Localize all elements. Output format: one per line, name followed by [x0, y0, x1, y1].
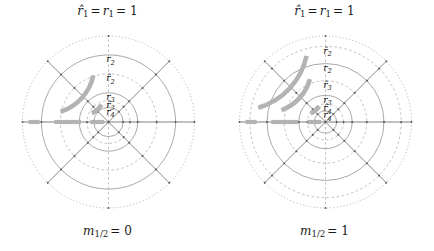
- grid-tick-dot: [155, 168, 157, 170]
- grid-tick-dot: [343, 121, 345, 123]
- grid-tick-dot: [332, 129, 334, 131]
- spoke-225deg: [48, 122, 109, 183]
- grid-tick-dot: [336, 121, 338, 123]
- grid-tick-dot: [194, 121, 196, 123]
- grid-tick-dot: [168, 60, 170, 62]
- grid-tick-dot: [128, 142, 130, 144]
- grid-tick-dot: [142, 155, 144, 157]
- data-arc-0: [61, 75, 94, 111]
- grid-tick-dot: [47, 182, 49, 184]
- polar-plot-left-svg: r2r̂2r3r̂3r4: [0, 22, 217, 222]
- grid-tick-dot: [118, 131, 120, 133]
- origin-dot: [107, 121, 109, 123]
- grid-tick-dot: [351, 121, 353, 123]
- radius-labels-right: r̂2r2r̂3r3r̂4r4: [323, 46, 332, 123]
- spoke-225deg: [265, 122, 326, 183]
- grid-tick-dot: [337, 134, 339, 136]
- panel-right-caption-eq: =: [325, 224, 339, 238]
- polar-plot-right-svg: r̂2r2r̂3r3r̂4r4: [217, 22, 434, 222]
- grid-tick-dot: [317, 113, 319, 115]
- grid-tick-dot: [332, 113, 334, 115]
- grid-tick-dot: [86, 121, 88, 123]
- figure-container: r̂1=r1=1 r2r̂2r3r̂3r4 m1/2=0 r̂1=r1=1 r̂…: [0, 0, 434, 251]
- grid-tick-dot: [137, 121, 139, 123]
- panel-left-title-eq1: =: [89, 4, 103, 18]
- grid-tick-dot: [306, 140, 308, 142]
- grid-tick-dot: [264, 60, 266, 62]
- radius-label-1: r̂2: [323, 46, 332, 58]
- grid-tick-dot: [295, 150, 297, 152]
- grid-tick-dot: [354, 150, 356, 152]
- grid-tick-dot: [283, 162, 285, 164]
- grid-tick-dot: [264, 182, 266, 184]
- grid-tick-dot: [47, 60, 49, 62]
- panel-left-caption-m: m: [83, 224, 94, 238]
- grid-tick-dot: [142, 87, 144, 89]
- polar-plot-right: r̂2r2r̂3r3r̂4r4: [217, 22, 434, 222]
- grid-tick-dot: [366, 162, 368, 164]
- grid-tick-dot: [366, 121, 368, 123]
- spoke-45deg: [109, 61, 170, 122]
- grid-tick-dot: [92, 106, 94, 108]
- grid-tick-dot: [87, 100, 89, 102]
- grid-tick-dot: [40, 121, 42, 123]
- grid-tick-dot: [306, 102, 308, 104]
- grid-tick-dot: [298, 121, 300, 123]
- grid-tick-dot: [295, 92, 297, 94]
- grid-tick-dot: [123, 106, 125, 108]
- grid-tick-dot: [118, 111, 120, 113]
- radius-labels-left: r2r̂2r3r̂3r4: [106, 54, 115, 119]
- radius-label-2: r̂2: [106, 73, 115, 85]
- panel-left-title-sub1: 1: [83, 9, 89, 19]
- grid-tick-dot: [383, 121, 385, 123]
- panel-left-caption-eq: =: [108, 224, 122, 238]
- grid-tick-dot: [378, 175, 380, 177]
- grid-tick-dot: [266, 121, 268, 123]
- grid-tick-dot: [92, 136, 94, 138]
- radius-label-2: r2: [323, 63, 332, 75]
- grid-tick-dot: [87, 142, 89, 144]
- grid-tick-dot: [122, 121, 124, 123]
- panel-left-title: r̂1=r1=1: [0, 4, 217, 19]
- panel-left-title-eq2: =: [114, 4, 128, 18]
- panel-right-title: r̂1=r1=1: [217, 4, 434, 19]
- grid-tick-dot: [411, 121, 413, 123]
- data-arc-2: [311, 106, 319, 113]
- panel-right-title-eq2: =: [331, 4, 345, 18]
- panel-right: r̂1=r1=1 r̂2r2r̂3r3r̂4r4 m1/2=1: [217, 0, 434, 251]
- grid-tick-dot: [239, 121, 241, 123]
- polar-grid-right: [239, 35, 413, 209]
- grid-tick-dot: [108, 207, 110, 209]
- grid-tick-dot: [271, 175, 273, 177]
- grid-tick-dot: [325, 207, 327, 209]
- panel-left-caption-sub: 1/2: [94, 229, 108, 239]
- grid-tick-dot: [175, 121, 177, 123]
- panel-right-title-hat-r: r̂: [294, 4, 300, 18]
- grid-tick-dot: [385, 60, 387, 62]
- grid-tick-dot: [366, 80, 368, 82]
- grid-tick-dot: [168, 182, 170, 184]
- panel-right-caption-sub: 1/2: [311, 229, 325, 239]
- panel-right-caption: m1/2=1: [217, 224, 434, 239]
- grid-tick-dot: [129, 121, 131, 123]
- grid-tick-dot: [73, 155, 75, 157]
- panel-left-caption: m1/2=0: [0, 224, 217, 239]
- grid-tick-dot: [22, 121, 24, 123]
- grid-tick-dot: [343, 102, 345, 104]
- data-arc-1: [92, 104, 102, 113]
- panel-right-caption-value: 1: [339, 224, 351, 238]
- radius-label-1: r2: [106, 54, 115, 66]
- spoke-315deg: [109, 122, 170, 183]
- panel-right-title-sub1: 1: [300, 9, 306, 19]
- grid-tick-dot: [128, 100, 130, 102]
- panel-left-title-hat-r: r̂: [77, 4, 83, 18]
- grid-tick-dot: [343, 140, 345, 142]
- grid-tick-dot: [325, 35, 327, 37]
- polar-plot-left: r2r̂2r3r̂3r4: [0, 22, 217, 222]
- grid-tick-dot: [400, 121, 402, 123]
- panel-left: r̂1=r1=1 r2r̂2r3r̂3r4 m1/2=0: [0, 0, 217, 251]
- grid-tick-dot: [123, 136, 125, 138]
- origin-dot: [324, 121, 326, 123]
- spoke-135deg: [265, 61, 326, 122]
- grid-tick-dot: [60, 168, 62, 170]
